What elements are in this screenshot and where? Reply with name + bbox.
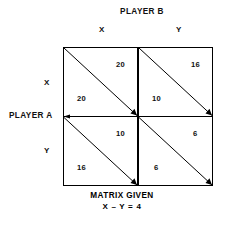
caption-equation: X – Y = 4 [6, 201, 232, 213]
column-header-y: Y [176, 26, 182, 34]
cell-xy-lower-left-value: 10 [152, 95, 161, 103]
cell-yy-upper-right-value: 6 [193, 130, 197, 138]
player-b-axis-title: PLAYER B [26, 8, 232, 16]
player-a-axis-title: PLAYER A [9, 112, 53, 120]
cell-diagonal-yx [64, 118, 137, 186]
cell-yy-lower-left-value: 6 [154, 164, 158, 172]
column-header-x: X [99, 26, 105, 34]
matrix-grid: 20 20 16 10 10 16 6 6 [63, 47, 213, 186]
caption-title: MATRIX GIVEN [6, 191, 232, 201]
cell-yx-lower-left-value: 16 [77, 164, 86, 172]
cell-diagonal-xy [139, 48, 212, 116]
row-header-y: Y [44, 147, 50, 155]
cell-xx-upper-right-value: 20 [116, 61, 125, 69]
row-header-x: X [44, 79, 50, 87]
cell-xx-lower-left-value: 20 [77, 95, 86, 103]
cell-diagonal-xx [64, 48, 137, 116]
cell-diagonal-yy [139, 118, 212, 186]
cell-xy-upper-right-value: 16 [191, 61, 200, 69]
payoff-matrix-figure: PLAYER B X Y PLAYER A X Y [0, 0, 232, 228]
cell-yx-upper-right-value: 10 [116, 130, 125, 138]
figure-caption: MATRIX GIVEN X – Y = 4 [6, 191, 232, 213]
